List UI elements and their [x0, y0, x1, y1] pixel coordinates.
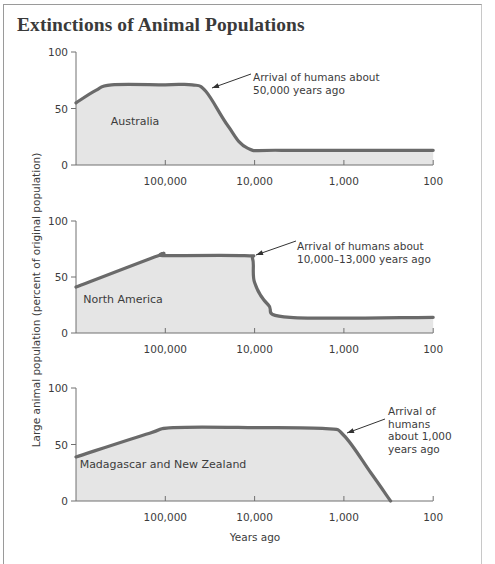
- y-tick-label: 0: [61, 327, 68, 339]
- panel-australia: 050100100,00010,0001,000100AustraliaArri…: [48, 46, 443, 187]
- x-tick-label: 1,000: [329, 511, 359, 523]
- y-tick-label: 50: [55, 271, 68, 283]
- y-tick-label: 50: [55, 103, 68, 115]
- x-tick-label: 100: [423, 175, 443, 187]
- y-tick-label: 50: [55, 439, 68, 451]
- human-arrival-annotation: Arrival ofhumansabout 1,000years ago: [388, 405, 452, 455]
- y-tick-label: 0: [61, 495, 68, 507]
- region-label: Madagascar and New Zealand: [80, 458, 247, 471]
- panel-north-america: 050100100,00010,0001,000100North America…: [48, 215, 443, 355]
- x-tick-label: 10,000: [236, 343, 273, 355]
- x-tick-label: 1,000: [329, 343, 359, 355]
- y-tick-label: 100: [48, 46, 68, 58]
- human-arrival-annotation: Arrival of humans about50,000 years ago: [253, 71, 380, 96]
- x-tick-label: 10,000: [236, 511, 273, 523]
- arrowhead-icon: [212, 83, 219, 88]
- panel-madagascar-new-zealand: 050100100,00010,0001,000100Madagascar an…: [48, 382, 452, 523]
- y-tick-label: 0: [61, 159, 68, 171]
- x-tick-label: 100,000: [144, 343, 187, 355]
- x-tick-label: 100,000: [144, 175, 187, 187]
- x-tick-label: 10,000: [236, 175, 273, 187]
- x-tick-label: 100,000: [144, 511, 187, 523]
- arrowhead-icon: [347, 428, 354, 433]
- y-axis-label: Large animal population (percent of orig…: [30, 153, 42, 448]
- x-axis-label: Years ago: [229, 531, 281, 543]
- y-tick-label: 100: [48, 382, 68, 394]
- arrowhead-icon: [256, 250, 263, 255]
- x-tick-label: 100: [423, 511, 443, 523]
- y-tick-label: 100: [48, 215, 68, 227]
- region-label: Australia: [111, 115, 160, 128]
- human-arrival-annotation: Arrival of humans about10,000–13,000 yea…: [297, 240, 431, 265]
- x-tick-label: 100: [423, 343, 443, 355]
- region-label: North America: [83, 293, 163, 306]
- x-tick-label: 1,000: [329, 175, 359, 187]
